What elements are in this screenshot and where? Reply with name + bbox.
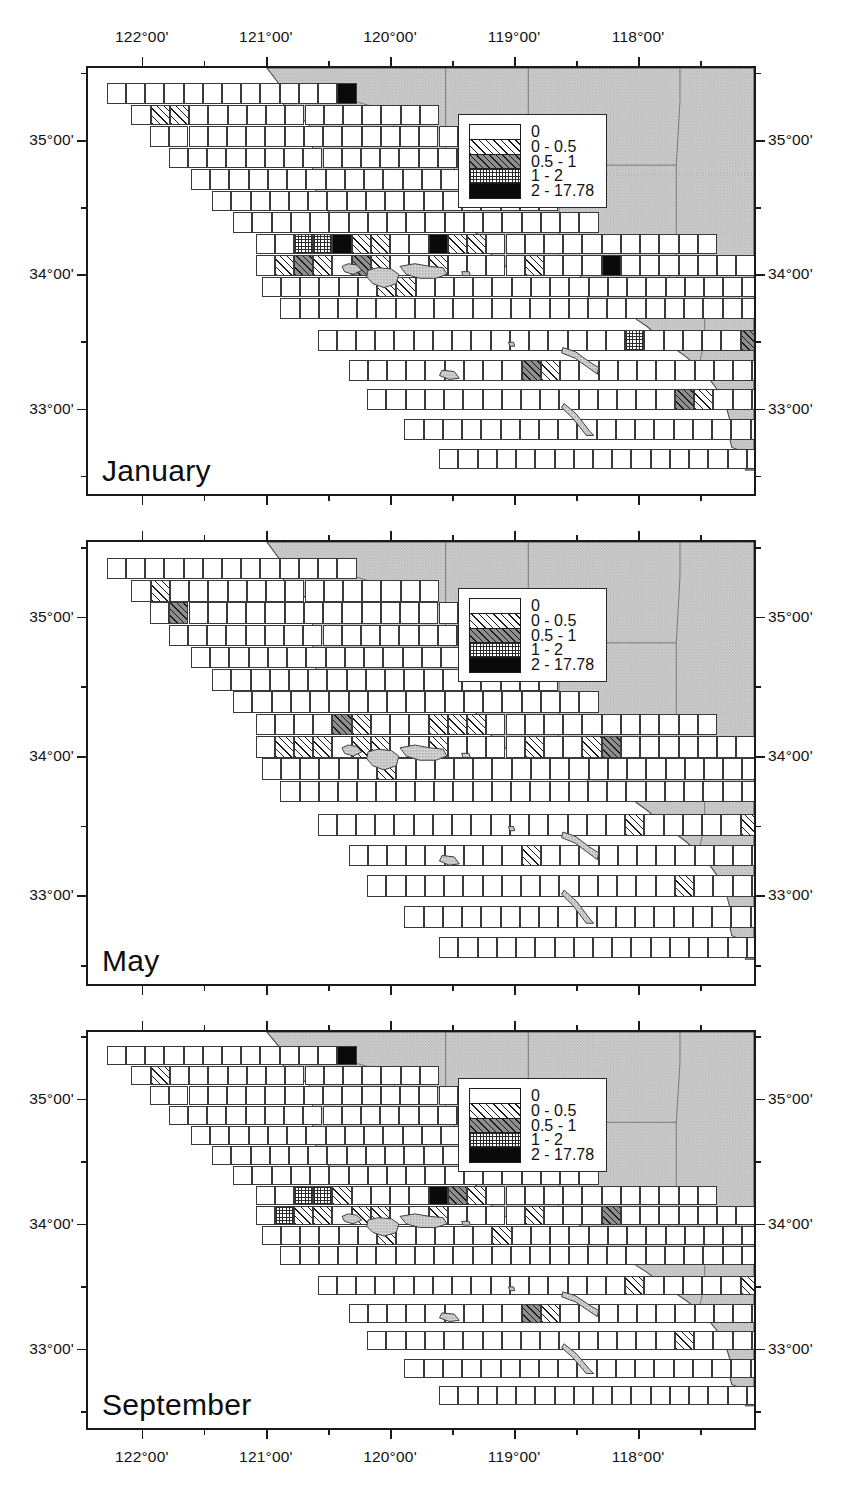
grid-cell <box>337 1046 356 1065</box>
grid-cell <box>522 691 541 713</box>
grid-cell <box>497 449 516 470</box>
grid-cell <box>318 814 337 836</box>
legend-labels: 00 - 0.50.5 - 11 - 22 - 17.78 <box>530 1088 594 1162</box>
grid-cell <box>396 1246 415 1265</box>
grid-cell <box>343 105 362 126</box>
lon-tick-label: 122°00' <box>115 28 169 46</box>
grid-cell <box>285 126 304 147</box>
lon-tick-label: 120°00' <box>363 1448 417 1466</box>
legend-swatch <box>469 1103 521 1119</box>
grid-cell <box>626 781 645 803</box>
grid-cell <box>345 647 364 669</box>
lat-tick-left <box>81 686 86 688</box>
grid-cell <box>646 1246 665 1265</box>
panel-frame: 00 - 0.50.5 - 11 - 22 - 17.78May <box>86 540 756 986</box>
grid-cell <box>327 191 346 212</box>
grid-cell <box>313 255 332 276</box>
legend-swatch <box>469 154 521 170</box>
grid-cell <box>597 419 616 440</box>
grid-cell <box>713 875 732 897</box>
grid-cell <box>396 1226 415 1245</box>
lat-tick-label-left: 33°00' <box>29 886 74 904</box>
grid-cell <box>294 736 313 758</box>
grid-cell <box>280 1246 299 1265</box>
grid-cell <box>483 212 502 233</box>
grid-cell <box>380 148 399 169</box>
grid-cell <box>544 1206 563 1225</box>
grid-cell <box>550 1226 569 1245</box>
grid-cell <box>126 83 145 104</box>
map-panel-january: 00 - 0.50.5 - 11 - 22 - 17.78January <box>86 66 756 496</box>
grid-cell <box>550 1246 569 1265</box>
grid-cell <box>308 669 327 691</box>
grid-cell <box>535 937 554 959</box>
grid-cell <box>212 669 231 691</box>
grid-cell <box>380 1106 399 1125</box>
grid-cell <box>256 234 275 255</box>
grid-cell <box>419 126 438 147</box>
grid-cell <box>659 234 678 255</box>
lon-tick-top <box>576 61 578 66</box>
grid-cell <box>429 1206 448 1225</box>
grid-cell <box>550 298 569 319</box>
grid-cell <box>540 389 559 410</box>
grid-cell <box>349 1166 368 1185</box>
lat-tick-label-left: 34°00' <box>29 1215 74 1233</box>
lat-tick-label-right: 33°00' <box>768 400 813 418</box>
grid-cell <box>646 781 665 803</box>
grid-cell <box>191 169 210 190</box>
grid-cell <box>339 1226 358 1245</box>
lat-tick-right <box>756 1349 765 1351</box>
grid-cell <box>520 1359 539 1378</box>
grid-cell <box>241 558 260 580</box>
grid-cell <box>666 1226 685 1245</box>
grid-cell <box>386 389 405 410</box>
lat-tick-right <box>756 1224 765 1226</box>
grid-cell <box>184 558 203 580</box>
grid-cell <box>229 1126 248 1145</box>
grid-cell <box>646 758 665 780</box>
grid-cell <box>252 212 271 233</box>
grid-cell <box>289 669 308 691</box>
grid-cell <box>560 212 579 233</box>
grid-cell <box>529 1276 548 1295</box>
grid-cell <box>448 234 467 255</box>
grid-cell <box>404 419 423 440</box>
grid-cell <box>342 126 361 147</box>
map-plot-area <box>88 1032 754 1428</box>
grid-cell <box>107 1046 126 1065</box>
lat-tick-label-right: 34°00' <box>768 747 813 765</box>
grid-cell <box>640 234 659 255</box>
grid-cell <box>367 389 386 410</box>
grid-cell <box>306 1126 325 1145</box>
grid-cell <box>512 758 531 780</box>
grid-cell <box>717 736 736 758</box>
grid-cell <box>338 781 357 803</box>
grid-cell <box>742 1246 754 1265</box>
grid-cell <box>731 419 750 440</box>
grid-cell <box>212 191 231 212</box>
grid-cell <box>169 625 188 647</box>
grid-cell <box>670 937 689 959</box>
grid-cell <box>617 875 636 897</box>
grid-cell <box>228 1066 247 1085</box>
grid-cell <box>246 602 265 624</box>
grid-cell <box>337 558 356 580</box>
legend-swatches <box>469 1088 521 1162</box>
grid-cell <box>588 1246 607 1265</box>
lon-tick-bottom <box>700 496 702 501</box>
grid-cell <box>656 360 675 381</box>
lat-tick-left <box>77 274 86 276</box>
grid-cell <box>406 845 425 867</box>
grid-cell <box>362 580 381 602</box>
grid-cell <box>358 277 377 298</box>
grid-cell <box>409 714 428 736</box>
grid-cell <box>419 602 438 624</box>
grid-cell <box>453 1246 472 1265</box>
grid-cell <box>377 758 396 780</box>
grid-cell <box>439 126 458 147</box>
grid-cell <box>294 714 313 736</box>
grid-cell <box>631 1386 650 1405</box>
grid-cell <box>491 814 510 836</box>
grid-cell <box>416 1226 435 1245</box>
